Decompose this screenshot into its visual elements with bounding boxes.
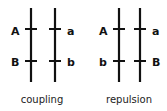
allele-label: a [152,25,159,38]
panel-caption: coupling [21,94,64,105]
coupling-panel: A B a b coupling [11,8,75,105]
panel-caption: repulsion [106,94,152,105]
allele-label: b [67,56,75,69]
allele-label: b [99,56,107,69]
allele-label: A [11,25,20,38]
allele-label: B [152,56,160,69]
linkage-diagram: A B a b coupling A b a B repulsion [0,0,167,111]
repulsion-panel: A b a B repulsion [99,8,160,105]
allele-label: a [67,25,74,38]
allele-label: A [99,25,108,38]
allele-label: B [11,56,19,69]
